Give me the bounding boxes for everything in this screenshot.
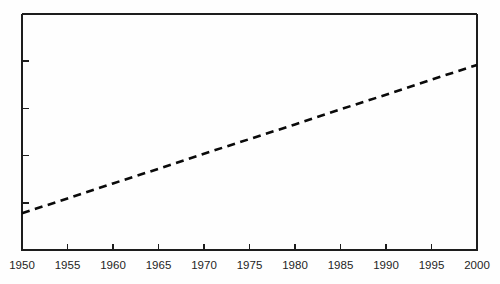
x-tick-label-1975: 1975 — [237, 259, 263, 271]
x-tick-label-1960: 1960 — [100, 259, 126, 271]
x-tick-label-1965: 1965 — [146, 259, 172, 271]
x-tick-label-1990: 1990 — [373, 259, 399, 271]
x-tick-label-1970: 1970 — [191, 259, 217, 271]
x-tick-label-1980: 1980 — [282, 259, 308, 271]
line-chart: 1950195519601965197019751980198519901995… — [0, 0, 500, 284]
x-tick-label-1995: 1995 — [419, 259, 445, 271]
x-tick-label-1955: 1955 — [55, 259, 81, 271]
x-tick-label-2000: 2000 — [464, 259, 490, 271]
chart-figure: 1950195519601965197019751980198519901995… — [0, 0, 500, 284]
x-tick-label-1985: 1985 — [328, 259, 354, 271]
x-tick-label-1950: 1950 — [9, 259, 35, 271]
chart-background — [0, 0, 500, 284]
